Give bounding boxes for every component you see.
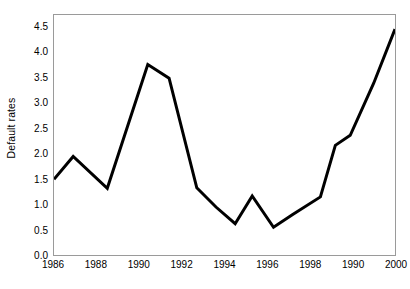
y-axis-tick-label: 2.0 bbox=[34, 149, 48, 159]
y-axis-title: Default rates bbox=[0, 0, 22, 256]
x-axis-tick-label: 2000 bbox=[385, 259, 407, 271]
y-axis-tick-label: 4.5 bbox=[34, 22, 48, 32]
data-line-svg bbox=[54, 15, 395, 255]
x-axis-tick-label: 1994 bbox=[213, 259, 235, 271]
y-axis-tick-label: 1.5 bbox=[34, 175, 48, 185]
y-axis-tick-label: 4.0 bbox=[34, 47, 48, 57]
plot-area bbox=[53, 14, 396, 256]
y-axis-tick-label: 1.0 bbox=[34, 200, 48, 210]
y-axis-tick-label: 0.5 bbox=[34, 226, 48, 236]
x-axis-tick-label: 1998 bbox=[299, 259, 321, 271]
x-axis-tick-label: 1992 bbox=[171, 259, 193, 271]
y-axis-tick-label: 2.5 bbox=[34, 124, 48, 134]
x-axis-tick-label: 1990 bbox=[128, 259, 150, 271]
y-axis-tick-label: 3.0 bbox=[34, 98, 48, 108]
y-axis-title-text: Default rates bbox=[5, 98, 17, 159]
y-axis-tick-label: 3.5 bbox=[34, 73, 48, 83]
x-axis-tick-label: 1990 bbox=[342, 259, 364, 271]
x-axis-tick-label: 1988 bbox=[85, 259, 107, 271]
x-axis-tick-labels: 198619881990199219941996199819902000 bbox=[0, 259, 410, 279]
y-axis-tick-labels: 0.00.51.01.52.02.53.03.54.04.5 bbox=[22, 0, 51, 289]
data-series-line bbox=[54, 29, 395, 227]
chart-figure: Default rates 0.00.51.01.52.02.53.03.54.… bbox=[0, 0, 410, 289]
x-axis-tick-label: 1996 bbox=[256, 259, 278, 271]
x-axis-tick-label: 1986 bbox=[42, 259, 64, 271]
